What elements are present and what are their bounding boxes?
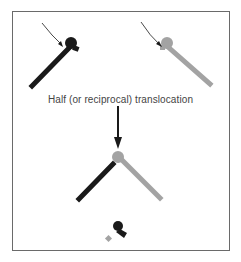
dark-chromosome xyxy=(32,37,80,86)
breakpoint-arrow-left xyxy=(42,23,62,45)
lost-fragments xyxy=(105,221,127,242)
translocated-chromosome xyxy=(79,151,160,199)
down-arrow-icon xyxy=(114,106,122,149)
light-chromosome xyxy=(160,37,210,84)
translocation-diagram xyxy=(0,0,241,262)
diagram-caption: Half (or reciprocal) translocation xyxy=(0,94,241,105)
breakpoint-arrow-right xyxy=(141,22,160,45)
